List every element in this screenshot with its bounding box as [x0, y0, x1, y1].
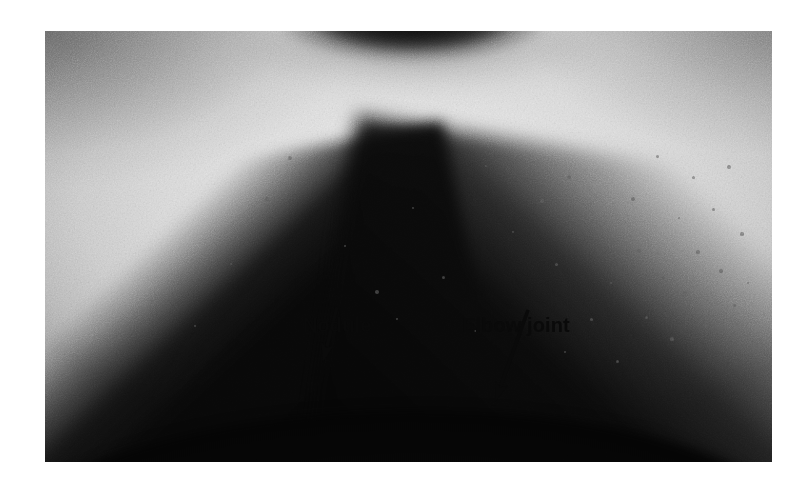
annotation-arrow-layer — [45, 31, 772, 462]
annotation-label-nodule: Nodule — [303, 315, 371, 335]
clinical-photo-figure: Nodule Elbow joint — [0, 0, 808, 482]
photograph: Nodule Elbow joint — [45, 31, 772, 462]
annotation-label-elbow-joint: Elbow joint — [462, 315, 570, 335]
